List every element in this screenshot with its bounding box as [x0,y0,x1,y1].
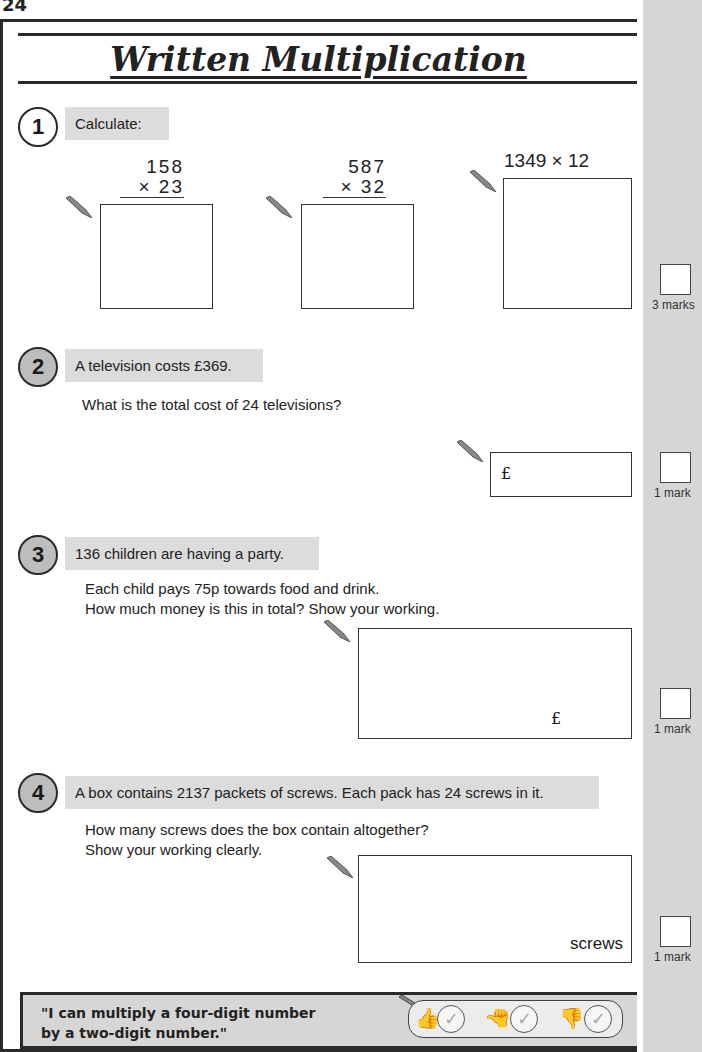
question-2-number: 2 [18,347,58,387]
question-1-heading: Calculate: [65,107,169,140]
question-3-line-1: Each child pays 75p towards food and dri… [85,579,439,599]
thumbs-down-icon: 👎 [559,1006,584,1030]
q3-mark-box[interactable] [660,688,691,719]
top-rule [0,19,637,22]
q4-answer-box[interactable]: screws [358,855,632,963]
q1a-answer-box[interactable] [100,204,213,309]
q2-mark-box[interactable] [660,452,691,483]
marks-sidebar [643,0,702,1052]
question-4-text: How many screws does the box contain alt… [85,820,429,860]
question-3-number: 3 [18,535,58,575]
q3-answer-box[interactable]: £ [358,628,632,739]
pencil-icon [468,170,498,192]
question-2-text: What is the total cost of 24 televisions… [82,395,341,415]
q1c-answer-box[interactable] [503,178,632,309]
self-rating-options: 👍 ✓ 👍 ✓ 👎 ✓ [408,1000,623,1038]
q2-marks-label: 1 mark [654,486,691,500]
self-assessment-statement: "I can multiply a four-digit number by a… [41,1003,316,1043]
q1b-top: 587 [323,157,386,177]
frame-left-border [0,20,3,1052]
title-rule-bottom [18,81,637,84]
page-number: 24 [2,0,27,15]
pencil-icon [64,196,94,218]
question-3-line-2: How much money is this in total? Show yo… [85,599,439,619]
q1b-answer-box[interactable] [301,204,414,309]
question-3-text: Each child pays 75p towards food and dri… [85,579,439,619]
q2-answer-box[interactable]: £ [490,452,632,497]
title-rule-top [18,33,637,36]
question-2-heading: A television costs £369. [65,349,263,382]
pencil-icon [322,620,352,642]
question-4-heading: A box contains 2137 packets of screws. E… [65,776,599,809]
thumbs-sideways-icon: 👍 [485,1006,509,1031]
q1a-bottom: × 23 [120,177,184,198]
q1a-top: 158 [120,157,184,177]
pencil-icon [264,196,294,218]
q1a-sum: 158 × 23 [120,157,184,198]
q4-marks-label: 1 mark [654,950,691,964]
q1b-sum: 587 × 32 [323,157,386,198]
question-4-line-1: How many screws does the box contain alt… [85,820,429,840]
page-title: Written Multiplication [0,40,637,79]
pound-sign: £ [551,709,561,728]
self-assessment-panel: "I can multiply a four-digit number by a… [20,992,637,1049]
q1b-bottom: × 32 [323,177,386,198]
screws-unit-label: screws [570,934,623,954]
pound-sign: £ [501,464,511,483]
q1-mark-box[interactable] [660,264,691,295]
q1-marks-label: 3 marks [652,298,695,312]
q1c-expression: 1349 × 12 [504,150,589,172]
rating-not-yet-checkbox[interactable]: ✓ [584,1005,612,1033]
rating-confident-checkbox[interactable]: ✓ [437,1005,465,1033]
rating-unsure-checkbox[interactable]: ✓ [510,1005,538,1033]
question-1-number: 1 [18,107,58,147]
q3-marks-label: 1 mark [654,722,691,736]
question-4-number: 4 [18,773,58,813]
pencil-icon [455,440,485,462]
q4-mark-box[interactable] [660,916,691,947]
pencil-icon [325,856,355,878]
question-3-heading: 136 children are having a party. [65,537,319,570]
